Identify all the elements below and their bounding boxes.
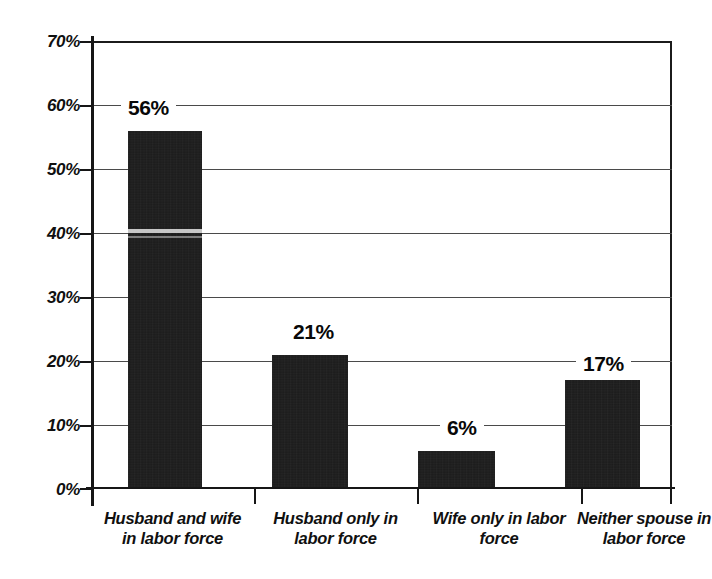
category-divider-4 — [670, 489, 672, 504]
value-label-husband-and-wife: 56% — [121, 95, 176, 121]
category-divider-1 — [254, 489, 256, 504]
y-tick-40 — [80, 233, 91, 235]
y-tick-20 — [80, 361, 91, 363]
category-label-line2: labor force — [576, 528, 712, 548]
value-label-neither-spouse: 17% — [576, 351, 631, 377]
bar-husband-only — [272, 355, 348, 489]
y-axis-label-0: 0% — [6, 481, 80, 498]
category-divider-2 — [417, 489, 419, 504]
y-tick-0 — [80, 488, 91, 490]
y-tick-30 — [80, 297, 91, 299]
y-axis-label-40: 40% — [6, 225, 80, 242]
value-label-husband-only: 21% — [286, 319, 341, 345]
bar-wife-only — [418, 451, 495, 489]
bar-neither-spouse — [565, 380, 640, 489]
category-label-line2: in labor force — [91, 528, 254, 548]
category-label-husband-only: Husband only in labor force — [254, 508, 417, 548]
category-label-line1: Husband and wife — [91, 508, 254, 528]
y-axis-label-10: 10% — [6, 417, 80, 434]
y-axis-label-60: 60% — [6, 97, 80, 114]
category-label-line1: Wife only in labor — [417, 508, 581, 528]
category-label-line2: labor force — [254, 528, 417, 548]
y-tick-60 — [80, 105, 91, 107]
category-label-line2: force — [417, 528, 581, 548]
y-axis-label-30: 30% — [6, 289, 80, 306]
y-axis-label-70: 70% — [6, 33, 80, 50]
category-label-neither-spouse: Neither spouse in labor force — [576, 508, 712, 548]
category-label-husband-and-wife: Husband and wife in labor force — [91, 508, 254, 548]
bar-chart: 70% 60% 50% 40% 30% 20% 10% 0% 56% 21% 6… — [0, 0, 712, 579]
category-divider-0 — [91, 489, 93, 504]
plot-border-top — [91, 41, 672, 43]
y-axis-label-20: 20% — [6, 353, 80, 370]
y-axis-label-50: 50% — [6, 161, 80, 178]
plot-area — [91, 41, 672, 489]
category-divider-3 — [581, 489, 583, 504]
scan-artifact — [128, 229, 202, 233]
category-label-line1: Neither spouse in — [576, 508, 712, 528]
value-label-wife-only: 6% — [440, 415, 484, 441]
y-tick-70 — [80, 41, 91, 43]
y-tick-10 — [80, 425, 91, 427]
scan-artifact — [128, 236, 202, 238]
x-axis-line — [86, 487, 675, 489]
bar-husband-and-wife — [128, 131, 202, 489]
category-label-line1: Husband only in — [254, 508, 417, 528]
y-axis-line — [91, 36, 94, 506]
y-tick-50 — [80, 169, 91, 171]
y-axis-labels: 70% 60% 50% 40% 30% 20% 10% 0% — [0, 0, 80, 579]
category-label-wife-only: Wife only in labor force — [417, 508, 581, 548]
gridline-60 — [91, 105, 672, 106]
plot-border-right — [670, 41, 672, 489]
